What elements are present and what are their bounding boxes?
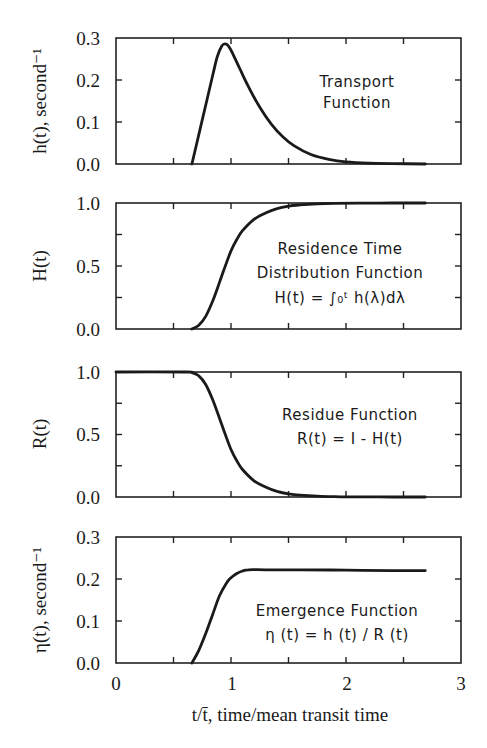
panel-emergence-function: 0.0 0.1 0.2 0.3 η(t), second⁻¹ Emergence… [29,527,461,674]
y-tick-label: 1.0 [76,362,100,383]
annotation-formula: η (t) = h (t) / R (t) [265,626,409,644]
y-tick-labels: 0.0 0.1 0.2 0.3 [76,28,100,175]
annotation-formula: H(t) = ∫₀ᵗ h(λ)dλ [275,289,406,307]
tick-marks [116,372,461,497]
x-tick-label: 2 [342,673,352,694]
y-tick-label: 0.0 [76,154,100,175]
annotation-line: Emergence Function [256,602,419,620]
y-axis-label: H(t) [29,250,51,282]
annotation-line: Function [323,94,391,112]
y-tick-labels: 0.0 0.5 1.0 [76,193,100,340]
tick-marks [116,537,461,663]
y-tick-label: 0.0 [76,319,100,340]
y-tick-label: 0.0 [76,487,100,508]
x-axis-label: t/t̄, time/mean transit time [192,704,388,725]
panel-residue-function: 0.0 0.5 1.0 R(t) Residue Function R(t) =… [29,362,461,508]
panel-residence-time-distribution: 0.0 0.5 1.0 H(t) Residence Time Distribu… [29,193,461,340]
y-tick-label: 0.0 [76,653,100,674]
y-axis-label: h(t), second⁻¹ [29,48,51,154]
x-tick-label: 1 [227,673,237,694]
y-tick-label: 0.1 [76,112,100,133]
y-tick-label: 1.0 [76,193,100,214]
plot-frame [116,38,461,164]
panel-transport-function: 0.0 0.1 0.2 0.3 h(t), second⁻¹ Transport… [29,28,461,175]
y-tick-label: 0.5 [76,424,100,445]
annotation-line: Residence Time [277,240,402,258]
y-tick-label: 0.3 [76,28,100,49]
y-tick-label: 0.1 [76,611,100,632]
annotation-line: Distribution Function [257,264,424,282]
plot-frame [116,537,461,663]
annotation-line: Transport [319,73,395,91]
y-tick-labels: 0.0 0.5 1.0 [76,362,100,508]
stacked-function-charts: 0.0 0.1 0.2 0.3 h(t), second⁻¹ Transport… [0,0,487,748]
annotation-formula: R(t) = I - H(t) [297,430,403,448]
y-axis-label: R(t) [29,419,51,450]
tick-marks [116,38,461,164]
annotation-line: Residue Function [282,406,418,424]
y-tick-label: 0.3 [76,527,100,548]
y-tick-labels: 0.0 0.1 0.2 0.3 [76,527,100,674]
x-tick-label: 0 [111,673,121,694]
y-tick-label: 0.5 [76,256,100,277]
x-axis: 0 1 2 3 t/t̄, time/mean transit time [111,673,466,725]
y-tick-label: 0.2 [76,70,100,91]
x-tick-label: 3 [456,673,466,694]
y-tick-label: 0.2 [76,569,100,590]
plot-frame [116,372,461,497]
y-axis-label: η(t), second⁻¹ [29,547,51,653]
